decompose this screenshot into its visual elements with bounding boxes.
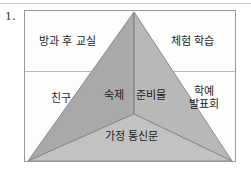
figure-page: 1. 방과 후 교실 체험 학습 친구 숙제 준비물 학예 발표회 가정 통신문 [0,0,251,173]
label-after-school-classroom: 방과 후 교실 [39,35,96,48]
label-arts-performance: 학예 발표회 [189,85,219,111]
label-homework: 숙제 [104,89,124,102]
label-supplies: 준비물 [136,89,166,102]
page-top-rule [0,3,251,4]
label-home-newsletter: 가정 통신문 [105,130,159,143]
label-friend: 친구 [51,92,71,105]
figure-box: 방과 후 교실 체험 학습 친구 숙제 준비물 학예 발표회 가정 통신문 [24,10,236,162]
label-experiential-learning: 체험 학습 [171,35,215,48]
label-arts-line1: 학예 [189,85,219,98]
item-number: 1. [5,10,16,23]
label-arts-line2: 발표회 [189,98,219,111]
